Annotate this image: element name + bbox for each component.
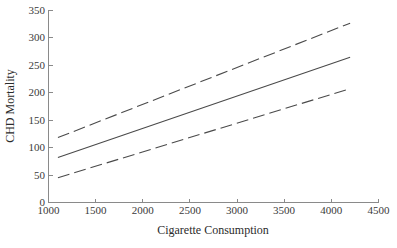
y-tick-label: 350 [29,4,46,16]
x-axis-tick-labels: 1000 1500 2000 2500 3000 3500 4000 4500 [38,204,390,216]
lower-confidence-band [58,89,350,178]
x-tick-label: 4000 [320,204,343,216]
x-tick-label: 2000 [132,204,155,216]
chart-page: 0 50 100 150 200 250 300 350 1000 1500 2… [0,0,397,248]
y-tick-label: 100 [29,141,46,153]
y-axis-title: CHD Mortality [3,69,17,143]
y-tick-label: 150 [29,114,46,126]
x-tick-label: 1500 [85,204,108,216]
chd-mortality-scatter-fit-chart: 0 50 100 150 200 250 300 350 1000 1500 2… [0,0,397,248]
y-axis-ticks [49,10,53,203]
y-axis-tick-labels: 0 50 100 150 200 250 300 350 [29,4,46,209]
x-tick-label: 1000 [38,204,61,216]
x-tick-label: 3500 [273,204,296,216]
x-axis-title: Cigarette Consumption [157,223,269,237]
y-tick-label: 300 [29,31,46,43]
x-axis-ticks [49,199,379,203]
x-tick-label: 2500 [179,204,202,216]
x-tick-label: 4500 [367,204,390,216]
y-tick-label: 250 [29,59,46,71]
regression-fit-line [58,57,350,157]
y-tick-label: 200 [29,86,46,98]
upper-confidence-band [58,23,350,137]
y-tick-label: 50 [34,169,46,181]
x-tick-label: 3000 [226,204,249,216]
